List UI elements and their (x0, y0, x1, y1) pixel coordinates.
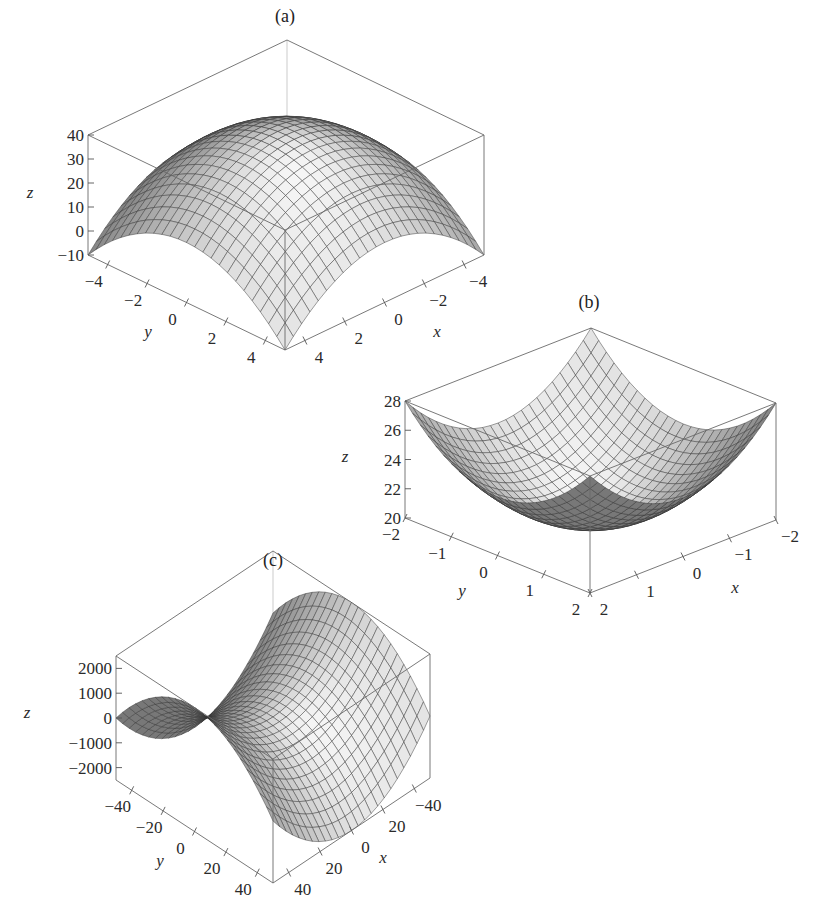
y-tick-label: 1 (526, 581, 535, 600)
z-tick-label: 40 (67, 126, 84, 145)
x-tick-label: 20 (326, 859, 343, 878)
surface-mesh (88, 116, 484, 350)
y-tick-label: 20 (203, 859, 220, 878)
x-tick-label: 20 (388, 817, 405, 836)
y-tick-label: 0 (168, 310, 177, 329)
z-axis: 2022242628 (384, 392, 411, 528)
x-tick-label: −40 (415, 796, 442, 815)
x-tick-label: 1 (646, 582, 655, 601)
z-axis-label: z (341, 447, 349, 466)
x-axis-label: x (378, 848, 387, 867)
surface-mesh (405, 328, 776, 531)
y-tick-label: −2 (124, 291, 142, 310)
y-tick-label: −4 (85, 272, 104, 291)
surface-plot-b: −2−1012−2−10122022242628zyx(b) (341, 292, 799, 619)
figure-canvas: −4−2024−4−2024−10010203040zyx(a) −2−1012… (0, 0, 820, 912)
x-tick-label: 0 (361, 838, 370, 857)
y-tick-label: 0 (176, 839, 185, 858)
x-tick-label: 0 (394, 310, 403, 329)
surface-plot-c: −40−2002040−402002040−2000−1000010002000… (23, 550, 442, 899)
z-tick-label: 24 (384, 451, 402, 470)
z-tick-label: −1000 (68, 734, 112, 753)
x-tick-label: −1 (734, 545, 752, 564)
plot-title: (c) (263, 550, 283, 571)
z-axis-label: z (23, 703, 31, 722)
y-axis: −2−1012 (382, 514, 592, 619)
z-tick-label: 1000 (78, 684, 112, 703)
y-tick-label: 2 (572, 600, 581, 619)
y-tick-label: −1 (428, 544, 446, 563)
x-tick-label: −2 (781, 527, 799, 546)
y-tick-label: −40 (104, 797, 131, 816)
z-axis-label: z (26, 183, 34, 202)
z-tick-label: 0 (104, 709, 113, 728)
y-axis-label: y (142, 322, 152, 341)
y-tick-label: −20 (136, 818, 163, 837)
plot-title: (a) (275, 6, 295, 27)
z-tick-label: 26 (384, 421, 401, 440)
x-tick-label: 0 (693, 564, 702, 583)
x-tick-label: −2 (429, 291, 447, 310)
y-tick-label: 40 (235, 880, 252, 899)
x-tick-label: 4 (315, 348, 324, 367)
y-axis-label: y (154, 851, 164, 870)
z-tick-label: −2000 (68, 759, 112, 778)
y-tick-label: 2 (208, 329, 217, 348)
x-tick-label: 2 (354, 329, 363, 348)
z-tick-label: 20 (67, 174, 84, 193)
y-tick-label: 4 (247, 348, 256, 367)
x-axis: −2−1012 (588, 516, 799, 619)
plot-title: (b) (579, 292, 600, 313)
z-axis: −2000−1000010002000 (68, 659, 122, 777)
x-tick-label: 2 (600, 600, 609, 619)
y-axis-label: y (456, 581, 466, 600)
surface-plot-a: −4−2024−4−2024−10010203040zyx(a) (26, 6, 488, 367)
z-tick-label: 10 (67, 198, 84, 217)
z-tick-label: 22 (384, 480, 401, 499)
z-tick-label: 20 (384, 509, 401, 528)
x-axis-label: x (432, 322, 441, 341)
z-tick-label: −10 (57, 246, 84, 265)
x-tick-label: −4 (469, 272, 488, 291)
y-tick-label: 0 (479, 563, 488, 582)
z-tick-label: 2000 (78, 659, 112, 678)
z-tick-label: 0 (76, 222, 85, 241)
x-tick-label: 40 (294, 880, 311, 899)
z-tick-label: 30 (67, 150, 84, 169)
z-tick-label: 28 (384, 392, 401, 411)
x-axis-label: x (730, 578, 739, 597)
z-axis: −10010203040 (57, 126, 94, 265)
y-axis: −40−2002040 (104, 786, 259, 898)
